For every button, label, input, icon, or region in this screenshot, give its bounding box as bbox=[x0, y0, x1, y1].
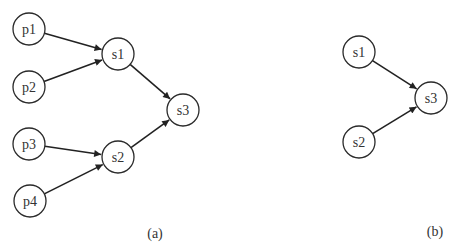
node-s3: s3 bbox=[415, 82, 447, 114]
node-label: s1 bbox=[112, 47, 124, 62]
edge-p3-to-s2 bbox=[45, 146, 101, 154]
edge-layer bbox=[372, 61, 416, 134]
edge-p1-to-s1 bbox=[44, 33, 101, 49]
edge-s1-to-s3 bbox=[130, 64, 170, 98]
panel-b: s1s2s3 (b) bbox=[343, 36, 447, 240]
node-label: s2 bbox=[353, 135, 365, 150]
node-s2: s2 bbox=[343, 126, 375, 158]
node-label: p1 bbox=[22, 22, 36, 37]
node-label: p4 bbox=[23, 194, 37, 209]
node-layer: s1s2s3 bbox=[343, 36, 447, 158]
node-label: s1 bbox=[353, 45, 365, 60]
node-p2: p2 bbox=[13, 71, 45, 103]
node-p1: p1 bbox=[13, 13, 45, 45]
node-p3: p3 bbox=[13, 128, 45, 160]
edge-s1-to-s3 bbox=[372, 61, 416, 89]
node-s1: s1 bbox=[102, 38, 134, 70]
node-p4: p4 bbox=[14, 185, 46, 217]
edge-p4-to-s2 bbox=[44, 165, 102, 194]
node-label: s2 bbox=[112, 150, 124, 165]
node-label: p3 bbox=[22, 137, 36, 152]
panel-a: p1p2p3p4s1s2s3 (a) bbox=[13, 13, 199, 242]
diagram-canvas: p1p2p3p4s1s2s3 (a) s1s2s3 (b) bbox=[0, 0, 457, 247]
node-s2: s2 bbox=[102, 141, 134, 173]
panel-a-label: (a) bbox=[147, 226, 163, 242]
node-layer: p1p2p3p4s1s2s3 bbox=[13, 13, 199, 217]
edge-s2-to-s3 bbox=[131, 120, 169, 148]
edge-p2-to-s1 bbox=[44, 60, 102, 82]
node-label: p2 bbox=[22, 80, 36, 95]
node-s1: s1 bbox=[343, 36, 375, 68]
node-label: s3 bbox=[177, 103, 189, 118]
node-s3: s3 bbox=[167, 94, 199, 126]
edge-s2-to-s3 bbox=[373, 107, 417, 134]
panel-b-label: (b) bbox=[427, 224, 444, 240]
node-label: s3 bbox=[425, 91, 437, 106]
